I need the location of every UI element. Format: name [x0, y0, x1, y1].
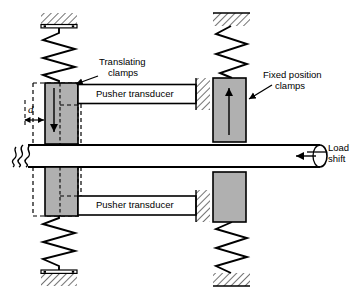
- translating-clamps-label-line2: clamps: [108, 67, 138, 78]
- load-rod: [12, 145, 327, 167]
- fixed-position-clamps-label-line1: Fixed position: [263, 69, 322, 80]
- load-shift-label-line2: shift: [328, 153, 345, 164]
- pusher-transducer-label-bottom: Pusher transducer: [96, 199, 174, 210]
- lower-transducer-wall: [196, 190, 210, 222]
- fixed-position-clamps-label-line2: clamps: [275, 80, 305, 91]
- load-shift-label-line1: Load: [328, 142, 349, 153]
- figure-canvas: Translating clamps Fixed position clamps…: [0, 0, 353, 298]
- lower-fixed-clamp: [213, 172, 246, 222]
- spring-bottom-left: [43, 216, 75, 270]
- displacement-d-label: d: [28, 104, 34, 115]
- spring-top-right: [216, 26, 247, 78]
- ground-anchor-top-left: [41, 13, 77, 28]
- ground-anchor-bottom-right: [213, 273, 250, 286]
- pusher-transducer-label-top: Pusher transducer: [96, 88, 174, 99]
- leader-fixed-clamps: [249, 85, 272, 99]
- translating-clamps-label-line1: Translating: [99, 56, 146, 67]
- lower-translating-clamp: [45, 167, 81, 216]
- upper-translating-clamp: [45, 83, 81, 150]
- spring-bottom-right: [216, 222, 247, 273]
- diagram-svg: [0, 0, 353, 298]
- ground-anchor-bottom-left: [41, 270, 77, 286]
- spring-top-left: [43, 28, 75, 83]
- leader-translating-clamps: [76, 76, 98, 84]
- upper-transducer-wall: [196, 78, 210, 110]
- upper-fixed-clamp: [213, 78, 246, 142]
- ground-anchor-top-right: [213, 13, 250, 26]
